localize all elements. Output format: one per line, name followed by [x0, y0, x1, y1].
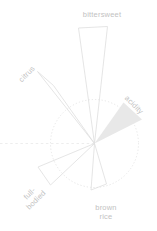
petal-full-bodied	[38, 144, 95, 186]
petal-bittersweet	[79, 27, 108, 144]
petal-label-line: brown	[95, 203, 116, 212]
petal-label-brown-rice: brownrice	[95, 203, 116, 222]
flavor-wheel-chart: bittersweetcitrusacidityfull-bodiedbrown…	[0, 0, 157, 231]
petal-brown-rice	[91, 144, 107, 191]
petal-label-bittersweet: bittersweet	[83, 10, 121, 19]
petal-label-line: rice	[95, 212, 116, 221]
petal-label-line: bittersweet	[83, 10, 121, 19]
